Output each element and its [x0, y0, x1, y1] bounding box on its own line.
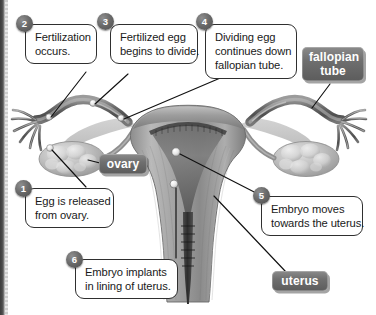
callout-egg-released: Egg is released from ovary.: [25, 188, 114, 228]
callout-4-line-3: fallopian tube.: [215, 58, 288, 72]
callout-5-line-1: Embryo moves: [271, 202, 354, 216]
callout-1-line-2: from ovary.: [35, 208, 105, 222]
callout-2-line-1: Fertilization: [35, 30, 88, 44]
callout-4-line-2: continues down: [215, 44, 288, 58]
callout-badge-5: 5: [253, 187, 270, 204]
callout-egg-travels: Dividing egg continues down fallopian tu…: [205, 24, 297, 79]
callout-3-line-1: Fertilized egg: [120, 30, 189, 44]
callout-embryo-moves: Embryo moves towards the uterus.: [261, 196, 363, 236]
callout-2-line-2: occurs.: [35, 44, 88, 58]
callout-egg-divides: Fertilized egg begins to divide.: [110, 24, 198, 64]
callout-fertilization: Fertilization occurs.: [25, 24, 97, 64]
callout-4-line-1: Dividing egg: [215, 30, 288, 44]
callout-6-line-1: Embryo implants: [85, 265, 169, 279]
label-fallopian-tube: fallopian tube: [302, 47, 364, 81]
egg-marker: [47, 145, 54, 152]
callout-6-line-2: in lining of uterus.: [85, 279, 169, 293]
callout-badge-6: 6: [66, 251, 83, 268]
label-uterus-text: uterus: [281, 274, 318, 288]
label-ovary-text: ovary: [107, 157, 140, 171]
label-uterus: uterus: [272, 271, 328, 291]
label-fallopian-tube-line-1: fallopian: [309, 50, 359, 64]
callout-embryo-implants: Embryo implants in lining of uterus.: [75, 259, 178, 299]
callout-3-line-2: begins to divide.: [120, 44, 189, 58]
callout-badge-1: 1: [15, 180, 32, 197]
callout-badge-2: 2: [16, 15, 33, 32]
diagram-canvas: Fertilization occurs. 2 Fertilized egg b…: [0, 0, 376, 315]
callout-badge-4: 4: [196, 13, 213, 30]
label-ovary: ovary: [99, 154, 147, 174]
callout-badge-3: 3: [97, 13, 114, 30]
callout-1-line-1: Egg is released: [35, 194, 105, 208]
callout-5-line-2: towards the uterus.: [271, 216, 354, 230]
label-fallopian-tube-line-2: tube: [320, 64, 346, 78]
